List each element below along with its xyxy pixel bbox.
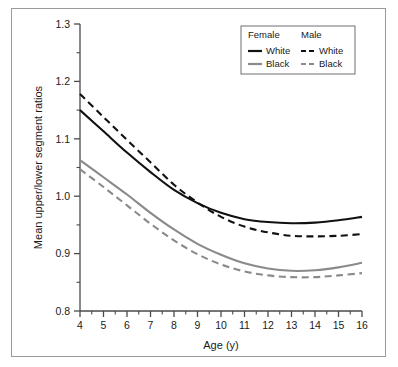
x-tick-label: 16 [356, 319, 368, 331]
y-tick-label: 0.8 [55, 305, 70, 317]
x-tick-label: 15 [333, 319, 345, 331]
y-tick-label: 1.3 [55, 18, 70, 30]
series-line-male-white [80, 94, 362, 236]
figure-root: 0.80.91.01.11.21.345678910111213141516Ag… [0, 0, 398, 367]
legend-label-male-black: Black [319, 58, 342, 69]
x-tick-label: 4 [77, 319, 83, 331]
x-tick-label: 12 [262, 319, 274, 331]
x-tick-label: 8 [171, 319, 177, 331]
y-tick-label: 1.1 [55, 133, 70, 145]
x-tick-label: 14 [309, 319, 321, 331]
x-tick-label: 5 [101, 319, 107, 331]
legend-header-female: Female [248, 29, 280, 40]
y-axis-title: Mean upper/lower segment ratios [32, 85, 44, 249]
legend-label-female-black: Black [266, 58, 289, 69]
y-tick-label: 1.2 [55, 75, 70, 87]
x-tick-label: 7 [148, 319, 154, 331]
series-line-female-black [80, 160, 362, 271]
y-tick-label: 0.9 [55, 247, 70, 259]
series-line-female-white [80, 110, 362, 223]
y-tick-label: 1.0 [55, 190, 70, 202]
legend-label-female-white: White [266, 45, 290, 56]
legend-layer: FemaleWhiteBlackMaleWhiteBlack [241, 26, 355, 74]
x-tick-label: 9 [195, 319, 201, 331]
x-axis-title: Age (y) [203, 339, 238, 351]
series-layer [80, 94, 362, 277]
x-tick-label: 11 [239, 319, 250, 331]
x-tick-label: 6 [124, 319, 130, 331]
chart-canvas: 0.80.91.01.11.21.345678910111213141516Ag… [0, 0, 398, 367]
x-tick-label: 13 [286, 319, 298, 331]
legend-label-male-white: White [319, 45, 343, 56]
x-tick-label: 10 [215, 319, 227, 331]
legend-header-male: Male [301, 29, 322, 40]
